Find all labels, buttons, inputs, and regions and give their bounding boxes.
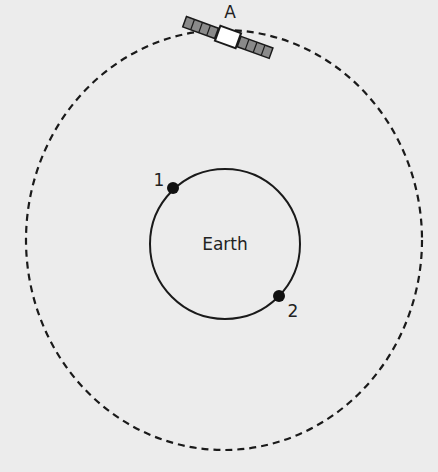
solar-panel-right (237, 36, 273, 58)
orbit-diagram: Earth 1 2 A (0, 0, 438, 472)
point-2-label: 2 (288, 301, 299, 321)
point-1-label: 1 (154, 170, 165, 190)
satellite-label: A (224, 2, 236, 22)
point-1-dot (167, 182, 179, 194)
point-2-dot (273, 290, 285, 302)
earth-label: Earth (202, 234, 248, 254)
solar-panel-left (183, 17, 219, 39)
